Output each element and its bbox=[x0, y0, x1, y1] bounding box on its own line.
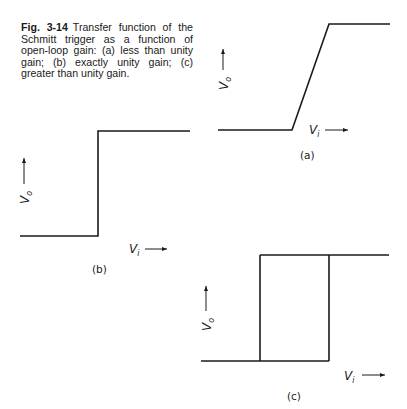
vi-label: Vi bbox=[344, 369, 355, 385]
panel-label-c: (c) bbox=[287, 390, 301, 402]
panel-label-b: (b) bbox=[92, 263, 107, 275]
panel-b: Vo Vi (b) bbox=[18, 131, 190, 275]
vi-label: Vi bbox=[129, 242, 140, 258]
transfer-curve-b bbox=[20, 131, 190, 236]
panel-a: Vo Vi (a) bbox=[217, 24, 390, 161]
vo-label: Vo bbox=[200, 318, 216, 331]
vo-label: Vo bbox=[217, 77, 233, 90]
schmitt-trigger-transfer-diagram: Vo Vi (a) Vo Vi (b) Vo Vi (c) bbox=[0, 0, 407, 409]
vi-label: Vi bbox=[309, 123, 320, 139]
vo-label: Vo bbox=[18, 191, 34, 204]
panel-label-a: (a) bbox=[300, 149, 315, 161]
transfer-curve-a bbox=[218, 24, 390, 130]
panel-c: Vo Vi (c) bbox=[200, 255, 389, 402]
